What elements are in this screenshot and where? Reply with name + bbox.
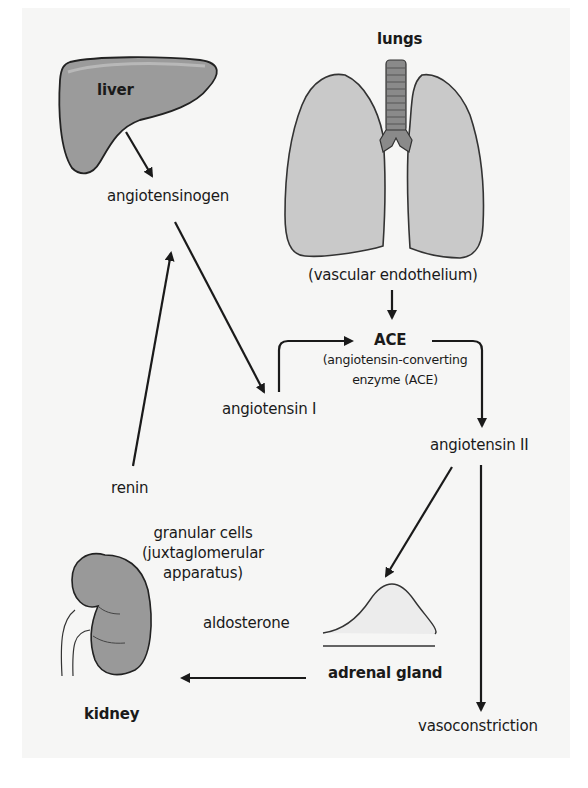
renin-label: renin [111,479,148,497]
arrow-liver-to-angiotensinogen [126,132,152,176]
angiotensin-2-label: angiotensin II [430,436,529,454]
angiotensinogen-label: angiotensinogen [107,187,229,205]
aldosterone-label: aldosterone [203,614,290,632]
kidney-label: kidney [84,705,139,723]
arrow-angiotensinogen-to-angiotensin1 [175,222,264,392]
ace-label: ACE [374,331,406,349]
liver-illustration [59,57,217,173]
adrenal-gland-illustration [323,584,436,646]
ace-description-line2: enzyme (ACE) [315,372,475,387]
lungs-label: lungs [377,30,422,48]
liver-label: liver [97,81,134,99]
adrenal-gland-label: adrenal gland [328,664,442,682]
angiotensin-1-label: angiotensin I [222,400,316,418]
vascular-endothelium-label: (vascular endothelium) [308,266,478,284]
arrow-renin-to-angiotensinogen [133,253,171,466]
granular-cells-line3: apparatus) [133,564,273,582]
arrow-angiotensin2-to-adrenal [386,467,452,576]
lungs-illustration [285,60,483,258]
raas-diagram [0,0,588,788]
granular-cells-line2: (juxtaglomerular [133,544,273,562]
ace-description-line1: (angiotensin-converting [315,352,475,367]
vasoconstriction-label: vasoconstriction [418,717,538,735]
granular-cells-line1: granular cells [133,524,273,542]
